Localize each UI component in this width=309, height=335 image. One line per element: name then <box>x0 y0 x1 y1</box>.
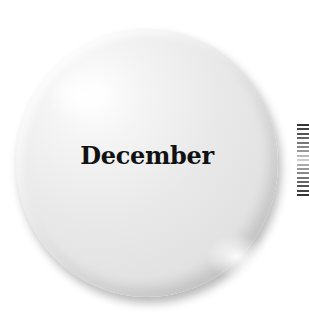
tick-mark <box>297 194 309 196</box>
december-round-button[interactable]: December <box>16 29 278 297</box>
tick-mark <box>297 142 309 144</box>
tick-mark <box>297 128 309 130</box>
tick-mark <box>297 177 309 179</box>
highlight-glare-bottom <box>206 234 266 279</box>
button-label: December <box>16 141 278 170</box>
tick-mark <box>297 159 309 161</box>
tick-mark <box>297 155 309 157</box>
tick-mark <box>297 172 309 174</box>
tick-mark <box>297 168 309 170</box>
tick-mark <box>297 190 309 192</box>
tick-mark <box>297 164 309 166</box>
tick-mark <box>297 181 309 183</box>
tick-mark <box>297 133 309 135</box>
tick-mark <box>297 150 309 152</box>
tick-mark <box>297 185 309 187</box>
tick-mark <box>297 146 309 148</box>
side-tick-marks <box>297 124 309 199</box>
tick-mark <box>297 137 309 139</box>
tick-mark <box>297 124 309 126</box>
highlight-glare <box>46 69 116 119</box>
